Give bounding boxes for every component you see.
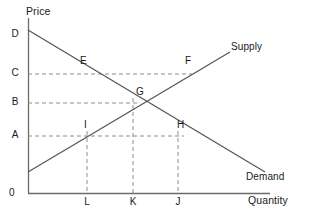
chart-drawing-area	[0, 0, 310, 221]
x-tick-label-J: J	[171, 196, 185, 207]
x-tick-label-L: L	[80, 196, 94, 207]
supply-curve-label: Supply	[231, 41, 262, 52]
origin-label: 0	[9, 187, 15, 198]
point-label-G: G	[136, 86, 144, 97]
price-axis-title: Price	[26, 5, 50, 17]
supply-curve	[28, 52, 230, 172]
point-label-I: I	[84, 119, 87, 130]
supply-demand-chart: Price Quantity 0 Supply Demand D C B A L…	[0, 0, 310, 221]
y-tick-label-C: C	[8, 67, 22, 78]
point-label-H: H	[177, 119, 184, 130]
demand-curve-label: Demand	[246, 171, 284, 182]
point-label-F: F	[185, 55, 191, 66]
x-tick-label-K: K	[126, 196, 140, 207]
point-label-E: E	[80, 55, 87, 66]
y-tick-label-D: D	[8, 28, 22, 39]
y-tick-label-B: B	[8, 96, 22, 107]
quantity-axis-title: Quantity	[248, 194, 288, 206]
y-tick-label-A: A	[8, 129, 22, 140]
